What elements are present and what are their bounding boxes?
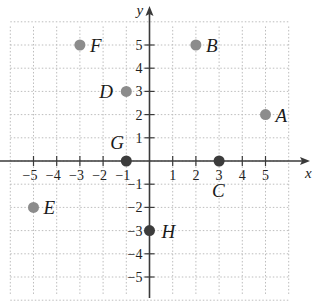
y-axis-label: y bbox=[135, 2, 144, 18]
x-tick-label: 2 bbox=[192, 168, 199, 183]
point-e: E bbox=[28, 197, 56, 218]
y-tick-label: −4 bbox=[128, 247, 143, 262]
y-tick-label: 3 bbox=[136, 84, 143, 99]
point-marker-icon bbox=[144, 225, 155, 236]
x-tick-label: −5 bbox=[23, 168, 38, 183]
x-tick-label: 4 bbox=[239, 168, 246, 183]
point-marker-icon bbox=[190, 40, 201, 51]
y-tick-label: 5 bbox=[136, 38, 143, 53]
point-marker-icon bbox=[214, 156, 225, 167]
point-label: H bbox=[161, 221, 177, 242]
point-label: G bbox=[110, 132, 124, 153]
x-tick-label: −2 bbox=[92, 168, 107, 183]
x-tick-label: −4 bbox=[46, 168, 61, 183]
y-tick-label: −3 bbox=[128, 224, 143, 239]
x-tick-label: 1 bbox=[169, 168, 176, 183]
y-tick-label: 2 bbox=[136, 108, 143, 123]
point-label: B bbox=[206, 35, 218, 56]
point-marker-icon bbox=[260, 109, 271, 120]
point-marker-icon bbox=[121, 156, 132, 167]
point-label: F bbox=[89, 35, 102, 56]
x-axis-label: x bbox=[304, 165, 312, 181]
point-label: C bbox=[212, 180, 225, 201]
y-tick-label: −2 bbox=[128, 200, 143, 215]
y-tick-label: −5 bbox=[128, 270, 143, 285]
point-label: E bbox=[43, 197, 56, 218]
point-marker-icon bbox=[28, 202, 39, 213]
point-label: D bbox=[98, 81, 113, 102]
x-tick-label: 5 bbox=[262, 168, 269, 183]
y-tick-label: 1 bbox=[136, 131, 143, 146]
point-d: D bbox=[98, 81, 132, 102]
y-tick-label: 4 bbox=[136, 61, 143, 76]
point-marker-icon bbox=[74, 40, 85, 51]
coordinate-plane: xy −5−4−3−2−11234554321−1−2−3−4−5 ABCDEF… bbox=[0, 0, 326, 302]
point-marker-icon bbox=[121, 86, 132, 97]
point-label: A bbox=[274, 105, 288, 126]
x-tick-label: −3 bbox=[69, 168, 84, 183]
y-tick-label: −1 bbox=[128, 177, 143, 192]
